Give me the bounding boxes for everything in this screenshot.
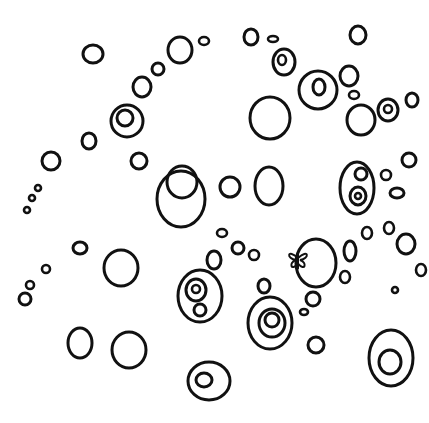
bubble-circle bbox=[273, 49, 295, 75]
bubble-circle bbox=[347, 105, 375, 135]
bubble-circle bbox=[278, 55, 286, 65]
bubble-circle bbox=[258, 279, 270, 293]
bubble-circle bbox=[196, 373, 212, 387]
bubble-circle bbox=[300, 309, 308, 315]
bubble-circle bbox=[350, 187, 366, 205]
bubble-circle bbox=[194, 304, 206, 316]
bubble-circle bbox=[168, 37, 192, 63]
bubble-circle bbox=[68, 328, 92, 358]
bubble-circle bbox=[244, 29, 258, 45]
bubble-circle bbox=[83, 45, 103, 63]
bubble-circle bbox=[397, 234, 415, 254]
bubble-circle bbox=[35, 185, 41, 191]
bubble-circle bbox=[249, 250, 259, 260]
bubble-circle bbox=[42, 265, 50, 273]
bubble-circle bbox=[340, 271, 350, 283]
bubble-circle bbox=[299, 71, 337, 109]
bubble-circle bbox=[355, 193, 361, 199]
bubble-circle bbox=[220, 177, 240, 197]
bubble-circle bbox=[217, 229, 227, 237]
bubble-circle bbox=[19, 293, 31, 305]
bubble-circle bbox=[133, 77, 151, 97]
bubble-drawing-svg bbox=[0, 0, 429, 423]
bubble-circle bbox=[416, 264, 426, 276]
bubble-circle bbox=[369, 330, 413, 386]
bubble-circle bbox=[131, 153, 147, 169]
bubble-circle bbox=[188, 362, 230, 400]
bubble-circle bbox=[340, 66, 358, 86]
bubble-circle bbox=[362, 227, 372, 239]
bubble-drawing bbox=[0, 0, 429, 423]
bubble-circle bbox=[112, 332, 146, 368]
bubble-circle bbox=[402, 153, 416, 167]
bubble-circle bbox=[152, 63, 164, 75]
bubble-circle bbox=[26, 281, 34, 289]
butterfly-icon bbox=[289, 253, 307, 269]
bubble-circle bbox=[381, 170, 391, 180]
bubble-circle bbox=[24, 207, 30, 213]
bubble-circle bbox=[355, 168, 367, 180]
bubble-circle bbox=[29, 195, 35, 201]
bubble-circle bbox=[199, 37, 209, 45]
bubble-circle bbox=[344, 241, 356, 261]
bubble-circle bbox=[82, 133, 96, 149]
bubble-circle bbox=[207, 251, 221, 269]
bubble-circle bbox=[268, 36, 278, 42]
bubble-circle bbox=[350, 26, 366, 44]
bubble-circle bbox=[42, 152, 60, 170]
bubble-circle bbox=[178, 270, 222, 322]
bubble-circle bbox=[186, 279, 206, 301]
bubble-circle bbox=[117, 110, 133, 126]
bubble-circle bbox=[308, 337, 324, 353]
bubble-circle bbox=[296, 239, 336, 287]
bubble-circle bbox=[349, 91, 359, 99]
bubble-circle bbox=[313, 79, 325, 95]
bubble-circle bbox=[104, 250, 138, 286]
bubble-circle bbox=[250, 97, 290, 139]
bubble-circle bbox=[265, 313, 279, 327]
bubble-circle bbox=[192, 285, 200, 293]
bubble-circle bbox=[384, 105, 392, 113]
bubble-circle bbox=[384, 222, 394, 234]
bubble-circle bbox=[379, 350, 401, 374]
bubble-circle bbox=[306, 292, 320, 306]
bubble-circle bbox=[255, 167, 283, 205]
bubble-circle bbox=[378, 99, 398, 121]
bubble-circle bbox=[390, 188, 404, 198]
bubble-circle bbox=[73, 242, 87, 254]
bubble-circle bbox=[392, 287, 398, 293]
bubble-circle bbox=[406, 93, 418, 107]
bubble-circle bbox=[232, 242, 244, 254]
